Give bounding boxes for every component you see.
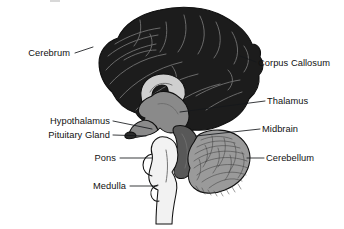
label-hypothalamus: Hypothalamus	[50, 116, 110, 126]
label-corpus-callosum: Corpus Callosum	[258, 58, 330, 68]
top-edge-artifact	[50, 0, 60, 2]
label-cerebellum: Cerebellum	[266, 153, 314, 163]
label-pituitary-gland: Pituitary Gland	[48, 130, 110, 140]
label-midbrain: Midbrain	[262, 124, 298, 134]
label-thalamus: Thalamus	[267, 96, 309, 106]
label-pons: Pons	[95, 153, 117, 163]
brain-anatomy-figure: Cerebrum Corpus Callosum Thalamus Hypoth…	[0, 0, 344, 229]
label-medulla: Medulla	[93, 181, 127, 191]
label-cerebrum: Cerebrum	[28, 48, 70, 58]
